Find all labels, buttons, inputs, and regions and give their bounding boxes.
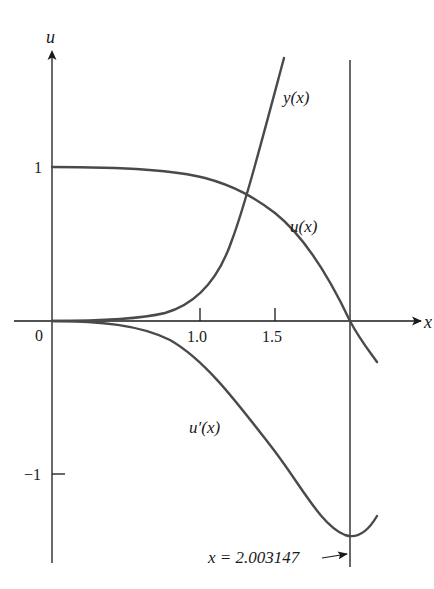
annotation-label: x = 2.003147: [207, 548, 301, 567]
curve-label-u: u(x): [290, 217, 318, 236]
tick-label-y-neg1: −1: [24, 466, 41, 483]
x-axis-label: x: [423, 312, 432, 332]
curve-u: [52, 167, 377, 362]
tick-label-x-1: 1.0: [187, 328, 207, 345]
origin-label: 0: [35, 327, 43, 344]
tick-label-x-1.5: 1.5: [262, 328, 282, 345]
annotation-arrow: [322, 554, 347, 558]
y-axis-label: u: [46, 27, 55, 47]
curve-label-y: y(x): [281, 88, 310, 107]
chart-figure: u x 0 1.0 1.5 1 −1 y(x) u(x) u′(x) x = 2…: [0, 0, 434, 589]
curve-y: [52, 58, 284, 321]
curve-label-u-prime: u′(x): [189, 418, 220, 437]
tick-label-y-1: 1: [34, 159, 42, 176]
